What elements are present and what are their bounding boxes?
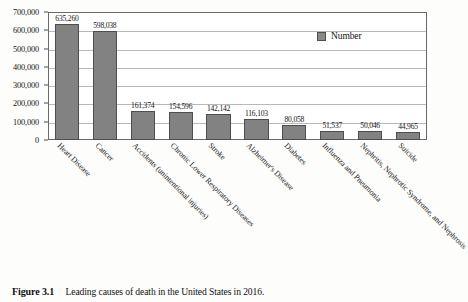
bar-value-label: 142,142 — [207, 104, 230, 113]
bar[interactable] — [244, 119, 268, 140]
bar[interactable] — [206, 114, 230, 140]
y-axis-tick-mark — [44, 85, 48, 86]
x-axis-category-label: Diabetes — [283, 141, 309, 167]
y-axis-tick-label: 500,000 — [13, 44, 39, 53]
bar[interactable] — [320, 131, 344, 140]
legend-swatch-number — [317, 32, 326, 41]
bar-slot: 116,103 — [238, 12, 276, 140]
y-axis-tick-mark — [44, 121, 48, 122]
y-axis-tick-mark — [44, 12, 48, 13]
y-axis-tick-label: 200,000 — [13, 99, 39, 108]
bar[interactable] — [358, 131, 382, 140]
bar-value-label: 635,260 — [55, 14, 78, 23]
bar-value-label: 161,374 — [131, 101, 154, 110]
y-axis-tick-label: 300,000 — [13, 81, 39, 90]
y-axis-tick-label: 100,000 — [13, 117, 39, 126]
x-axis-category-label: Accidents (unintentional injuries) — [131, 141, 211, 221]
bar-value-label: 51,537 — [322, 121, 342, 130]
bar[interactable] — [396, 132, 420, 140]
x-axis-category-label: Heart Disease — [55, 141, 92, 178]
x-axis-category-label: Cancer — [93, 141, 115, 163]
y-axis-tick-mark — [44, 30, 48, 31]
bar-slot: 598,038 — [86, 12, 124, 140]
figure-caption-text: Leading causes of death in the United St… — [65, 286, 264, 297]
bar-value-label: 598,038 — [93, 21, 116, 30]
bar-slot: 44,965 — [389, 12, 427, 140]
bar-value-label: 50,046 — [360, 121, 380, 130]
y-axis: 0100,000200,000300,000400,000500,000600,… — [0, 12, 44, 140]
legend-label-number: Number — [331, 31, 362, 41]
bar-slot: 80,058 — [275, 12, 313, 140]
x-axis-category-label: Suicide — [396, 141, 419, 164]
bar-slot: 154,596 — [162, 12, 200, 140]
bar-value-label: 116,103 — [245, 109, 268, 118]
chart-legend: Number — [317, 31, 362, 41]
bar-slot: 635,260 — [48, 12, 86, 140]
y-axis-tick-mark — [44, 48, 48, 49]
bar-value-label: 154,596 — [169, 102, 192, 111]
y-axis-tick-mark — [44, 66, 48, 67]
bar[interactable] — [131, 111, 155, 141]
x-axis: Heart DiseaseCancerAccidents (unintentio… — [48, 141, 427, 271]
bar-value-label: 44,965 — [398, 122, 418, 131]
y-axis-tick-mark — [44, 140, 48, 141]
y-axis-tick-label: 0 — [35, 136, 39, 145]
bar-slot: 142,142 — [200, 12, 238, 140]
bar[interactable] — [93, 31, 117, 140]
bar[interactable] — [282, 125, 306, 140]
y-axis-tick-label: 600,000 — [13, 26, 39, 35]
y-axis-tick-label: 400,000 — [13, 62, 39, 71]
y-axis-tick-mark — [44, 103, 48, 104]
bars-layer: 635,260598,038161,374154,596142,142116,1… — [48, 12, 427, 140]
figure-caption-label: Figure 3.1 — [12, 286, 54, 297]
figure-caption: Figure 3.1 Leading causes of death in th… — [12, 286, 436, 297]
bar-value-label: 80,058 — [284, 115, 304, 124]
bar[interactable] — [169, 112, 193, 140]
bar-slot: 161,374 — [124, 12, 162, 140]
bar[interactable] — [55, 24, 79, 140]
y-axis-tick-label: 700,000 — [13, 8, 39, 17]
x-axis-category-label: Stroke — [207, 141, 228, 162]
